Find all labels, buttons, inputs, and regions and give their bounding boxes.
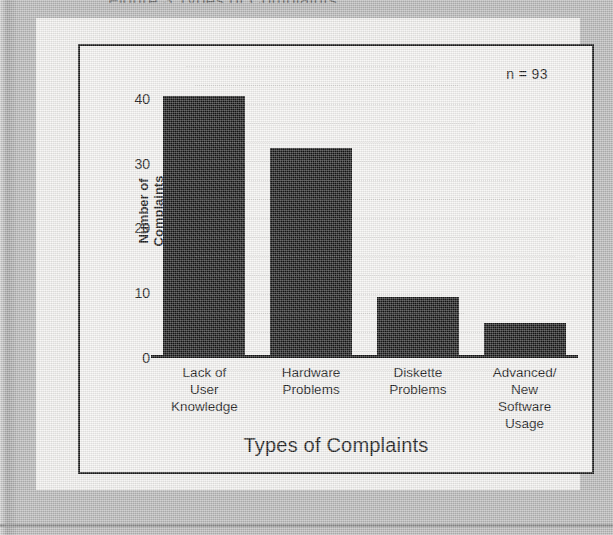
y-tick-10: 10 bbox=[134, 285, 150, 301]
page-bottom-rule bbox=[0, 524, 613, 527]
y-axis-tick-labels: 40 30 20 10 0 bbox=[114, 46, 150, 472]
x-axis-title: Types of Complaints bbox=[80, 434, 592, 457]
bar-slot-2 bbox=[365, 70, 472, 355]
category-label-1: HardwareProblems bbox=[258, 364, 365, 432]
bar-lack-of-user-knowledge bbox=[163, 96, 245, 355]
category-label-line: Diskette bbox=[365, 364, 472, 381]
figure-paper-block: n = 93 Number of Complaints 40 30 20 10 … bbox=[36, 18, 580, 490]
bar-slot-1 bbox=[258, 70, 365, 355]
bar-slot-0 bbox=[151, 70, 258, 355]
category-label-line: Hardware bbox=[258, 364, 365, 381]
bar-advanced-new-software-usage bbox=[484, 323, 566, 355]
category-label-0: Lack ofUserKnowledge bbox=[151, 364, 258, 432]
bar-chart: n = 93 Number of Complaints 40 30 20 10 … bbox=[80, 46, 592, 472]
y-tick-30: 30 bbox=[134, 156, 150, 172]
bar-slot-3 bbox=[471, 70, 578, 355]
y-tick-0: 0 bbox=[142, 350, 150, 366]
y-tick-20: 20 bbox=[134, 220, 150, 236]
category-label-line: New bbox=[471, 381, 578, 398]
figure-frame: n = 93 Number of Complaints 40 30 20 10 … bbox=[78, 44, 594, 474]
bar-series bbox=[151, 70, 578, 355]
category-label-line: Lack of bbox=[151, 364, 258, 381]
page-gutter-shadow bbox=[0, 0, 16, 535]
plot-area bbox=[151, 70, 578, 358]
category-label-line: Problems bbox=[365, 381, 472, 398]
category-label-line: Problems bbox=[258, 381, 365, 398]
x-axis-category-labels: Lack ofUserKnowledge HardwareProblems Di… bbox=[151, 364, 578, 432]
bar-diskette-problems bbox=[377, 297, 459, 355]
category-label-2: DisketteProblems bbox=[365, 364, 472, 432]
scanned-page: Figure 3 Types of Complaints n = 93 Numb… bbox=[0, 0, 613, 535]
cut-off-heading-text: Figure 3 Types of Complaints bbox=[108, 0, 438, 3]
category-label-line: Usage bbox=[471, 415, 578, 432]
bar-hardware-problems bbox=[270, 148, 352, 355]
category-label-line: User bbox=[151, 381, 258, 398]
category-label-line: Knowledge bbox=[151, 398, 258, 415]
y-tick-40: 40 bbox=[134, 91, 150, 107]
x-axis-baseline bbox=[151, 355, 578, 358]
category-label-line: Advanced/ bbox=[471, 364, 578, 381]
category-label-3: Advanced/NewSoftwareUsage bbox=[471, 364, 578, 432]
category-label-line: Software bbox=[471, 398, 578, 415]
